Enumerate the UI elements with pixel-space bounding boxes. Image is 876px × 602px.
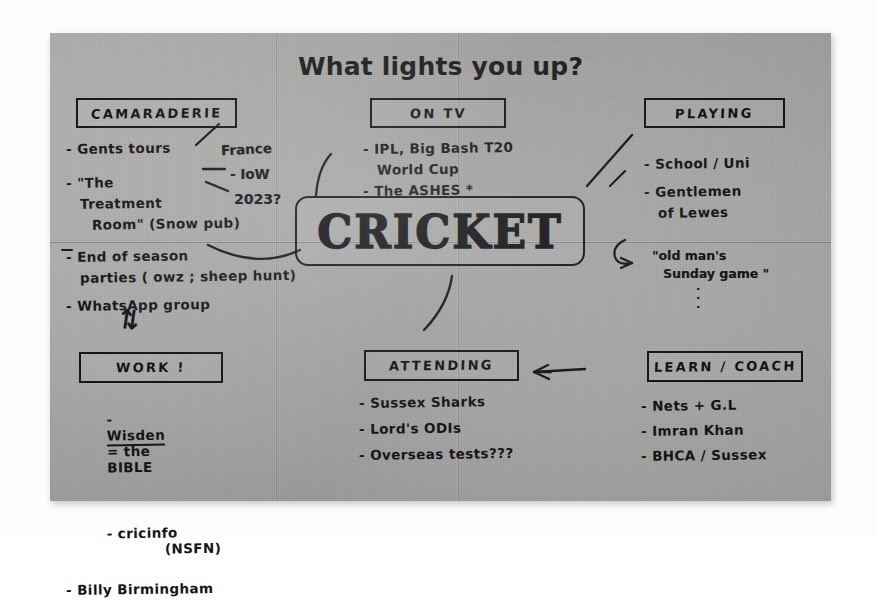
annotation-old-mans-game-line1: "old man's [652,248,726,264]
note-line: of Lewes [644,202,844,221]
note-line: - "The [66,172,316,191]
note-line: World Cup [363,159,603,178]
note-cricinfo: - cricinfo [107,524,178,541]
note-line: - Imran Khan [641,420,856,439]
heading-label-on-tv: ON TV [409,105,467,121]
note-line: - Lord's ODIs [359,418,589,437]
heading-label-playing: PLAYING [675,105,754,121]
heading-box-attending: ATTENDING [364,350,519,381]
note-nsfn: (NSFN) [107,540,222,558]
heading-box-playing: PLAYING [644,98,785,128]
notes-on-tv: - IPL, Big Bash T20 World Cup - The ASHE… [363,141,603,204]
paper-sheet: What lights you up? [50,33,831,501]
note-line: - Gents tours [66,138,316,157]
note-line: Room" (Snow pub) [66,214,316,233]
annotation-dots: ··· [696,285,700,312]
notes-playing: - School / Uni - Gentlemen of Lewes [644,156,844,226]
note-line: - Sussex Sharks [359,392,589,411]
branch-label-2023: 2023? [234,191,281,209]
heading-box-learn-coach: LEARN / COACH [647,351,803,382]
note-line: - End of season [66,246,316,265]
page-title: What lights you up? [50,52,831,81]
note-line: - BHCA / Sussex [641,445,856,464]
note-line: - School / Uni [644,153,844,172]
note-line: parties ( owz ; sheep hunt) [66,267,316,286]
note-line: - Nets + G.L [641,395,856,414]
note-line: - WhatsApp group [66,295,316,314]
heading-label-learn-coach: LEARN / COACH [653,358,796,374]
central-topic-label: CRICKET [317,204,563,258]
branch-label-iow: - IoW [230,166,270,183]
notes-learn-coach: - Nets + G.L - Imran Khan - BHCA / Susse… [641,398,856,469]
note-line-wisden: - Wisden = the BIBLE [65,392,336,492]
heading-box-camaraderie: CAMARADERIE [76,98,237,128]
note-bible: BIBLE [107,459,153,476]
note-line-cricinfo: - cricinfo (NSFN) [66,506,337,574]
note-line: - IPL, Big Bash T20 [363,138,603,157]
heading-label-camaraderie: CAMARADERIE [90,105,222,121]
note-line: - Overseas tests??? [359,444,589,463]
note-dash: - [106,411,112,427]
branch-label-france: France [221,140,273,160]
notes-camaraderie: - Gents tours - "The Treatment Room" (Sn… [66,141,316,319]
note-line: - Billy Birmingham [66,578,336,598]
notes-attending: - Sussex Sharks - Lord's ODIs - Overseas… [359,395,589,468]
up-down-arrow-icon: ⇅ [117,302,141,339]
heading-box-work: WORK ! [79,352,223,383]
heading-label-attending: ATTENDING [389,357,494,373]
note-line: - Gentlemen [644,181,844,200]
heading-label-work: WORK ! [116,360,186,376]
annotation-old-mans-game-line2: Sunday game " [663,266,769,282]
central-topic-box: CRICKET [295,196,585,266]
note-equals-the: = the [107,443,150,460]
heading-box-on-tv: ON TV [370,98,506,128]
notes-work: - Wisden = the BIBLE - cricinfo (NSFN) -… [66,396,336,602]
